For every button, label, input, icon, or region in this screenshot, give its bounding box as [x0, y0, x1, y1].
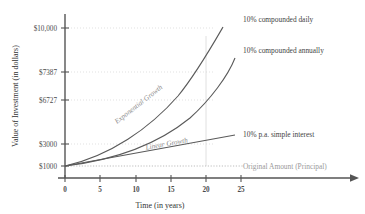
label-linear-growth: Linear Growth: [144, 136, 189, 152]
annotation-principal: Original Amount (Principal): [243, 162, 327, 171]
x-tick-label-10: 10: [132, 186, 140, 194]
x-tick-label-0: 0: [63, 186, 67, 194]
investment-growth-chart: $10,000 $7387 $6727 $3000 $1000 0 5 10 1…: [0, 0, 365, 214]
y-axis-title: Value of Investment (in dollars): [11, 45, 20, 147]
annotation-simple: 10% p.a. simple interest: [243, 130, 315, 139]
x-tick-label-5: 5: [98, 186, 102, 194]
x-tick-label-25: 25: [237, 186, 245, 194]
y-tick-label-6727: $6727: [39, 97, 57, 105]
x-axis-title: Time (in years): [135, 201, 184, 210]
x-tick-label-20: 20: [202, 186, 210, 194]
x-tick-label-15: 15: [167, 186, 175, 194]
annotation-daily: 10% compounded daily: [243, 15, 314, 24]
y-tick-label-10000: $10,000: [34, 25, 58, 33]
x-axis-arrowhead: [350, 174, 359, 182]
horizontal-gridlines: [65, 28, 215, 144]
chart-svg: $10,000 $7387 $6727 $3000 $1000 0 5 10 1…: [0, 0, 365, 214]
y-tick-label-7387: $7387: [39, 69, 57, 77]
label-exponential-growth: Exponential Growth: [113, 83, 165, 126]
y-tick-label-3000: $3000: [39, 141, 57, 149]
y-tick-label-1000: $1000: [39, 163, 57, 171]
annotation-annual: 10% compounded annually: [243, 46, 324, 55]
